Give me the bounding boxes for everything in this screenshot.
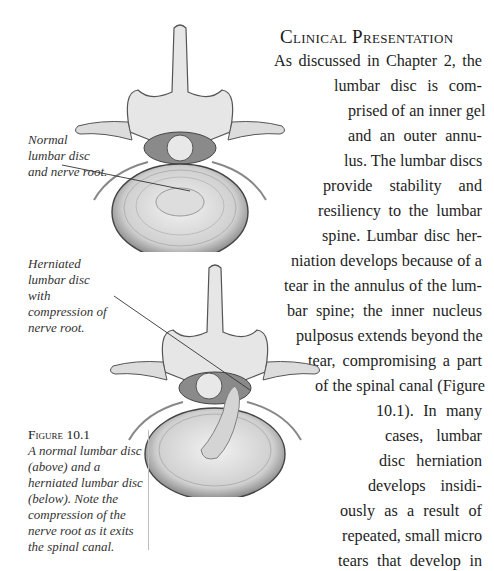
figure-caption-text: A normal lumbar disc (above) and a herni…: [28, 443, 144, 555]
body-text-line: tears that develop in: [338, 552, 482, 571]
figure-caption-title: Figure 10.1: [28, 427, 144, 443]
label-herniated-disc: Herniated lumbar disc with compression o…: [28, 256, 112, 336]
caption-rule: [148, 430, 149, 550]
figure-caption: Figure 10.1 A normal lumbar disc (above)…: [28, 427, 144, 555]
label-normal-disc: Normal lumbar disc and nerve root.: [28, 132, 108, 180]
